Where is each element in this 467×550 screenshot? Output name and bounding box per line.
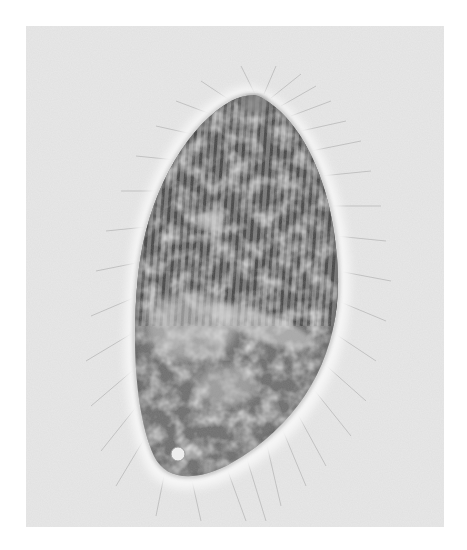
contractile-vacuole bbox=[171, 447, 185, 461]
ciliate-organism-illustration bbox=[26, 26, 444, 527]
apical-tip bbox=[240, 95, 268, 113]
micrograph bbox=[26, 26, 444, 527]
